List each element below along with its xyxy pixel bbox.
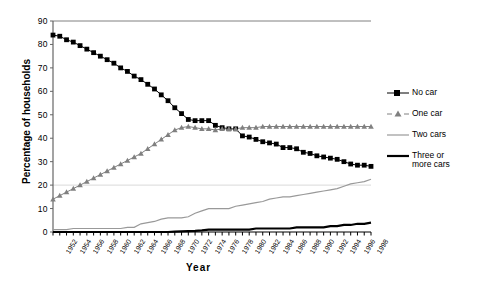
chart-container: Percentage of households Year 0102030405… bbox=[0, 0, 490, 287]
legend-label-three-or-more-cars-line2: more cars bbox=[412, 160, 450, 169]
x-axis-label: Year bbox=[186, 262, 211, 273]
y-tick-label: 50 bbox=[22, 110, 48, 120]
y-tick-label: 20 bbox=[22, 180, 48, 190]
legend-item-no-car: No car bbox=[387, 88, 450, 98]
legend-label-one-car: One car bbox=[412, 109, 442, 118]
y-tick-label: 60 bbox=[22, 86, 48, 96]
legend-key-triangle-icon bbox=[387, 109, 409, 119]
y-tick-label: 40 bbox=[22, 133, 48, 143]
y-tick-label: 30 bbox=[22, 157, 48, 167]
legend-key-line-gray-icon bbox=[387, 130, 409, 140]
y-tick-label: 70 bbox=[22, 63, 48, 73]
chart-legend: No car One car Two cars Three or more ca… bbox=[387, 88, 450, 172]
legend-item-one-car: One car bbox=[387, 109, 450, 119]
legend-item-two-cars: Two cars bbox=[387, 130, 450, 140]
legend-key-square-icon bbox=[387, 88, 409, 98]
legend-key-line-black-icon bbox=[387, 151, 409, 161]
y-tick-label: 0 bbox=[22, 227, 48, 237]
legend-label-two-cars: Two cars bbox=[412, 130, 446, 139]
y-tick-label: 80 bbox=[22, 39, 48, 49]
y-tick-label: 10 bbox=[22, 204, 48, 214]
y-axis-label: Percentage of households bbox=[21, 22, 32, 222]
legend-label-no-car: No car bbox=[412, 88, 437, 97]
y-tick-label: 90 bbox=[22, 16, 48, 26]
legend-item-three-or-more-cars: Three or more cars bbox=[387, 151, 450, 161]
